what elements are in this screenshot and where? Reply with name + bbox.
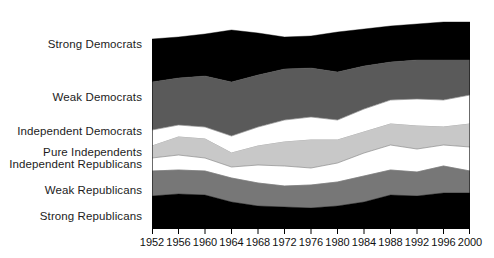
tick-label-1980: 1980	[325, 236, 349, 248]
tick-label-2000: 2000	[458, 236, 482, 248]
tick-label-1968: 1968	[246, 236, 270, 248]
tick-label-1956: 1956	[166, 236, 190, 248]
tick-label-1976: 1976	[299, 236, 323, 248]
band-label-independent-democrats: Independent Democrats	[17, 125, 142, 137]
tick-label-1960: 1960	[193, 236, 217, 248]
band-label-strong-democrats: Strong Democrats	[48, 38, 142, 50]
tick-label-1964: 1964	[219, 236, 243, 248]
chart-figure: Strong DemocratsWeak DemocratsIndependen…	[0, 0, 494, 258]
tick-label-1988: 1988	[378, 236, 402, 248]
tick-label-1972: 1972	[272, 236, 296, 248]
stacked-area-plot	[152, 10, 470, 229]
band-label-independent-republicans: Independent Republicans	[9, 158, 142, 170]
band-label-strong-republicans: Strong Republicans	[40, 210, 142, 222]
band-label-pure-independents: Pure Independents	[43, 146, 142, 158]
x-axis-tick-labels: 1952195619601964196819721976198019841988…	[0, 236, 494, 254]
band-label-weak-republicans: Weak Republicans	[45, 184, 142, 196]
tick-label-1984: 1984	[352, 236, 376, 248]
tick-label-1996: 1996	[431, 236, 455, 248]
tick-label-1952: 1952	[140, 236, 164, 248]
band-label-weak-democrats: Weak Democrats	[53, 91, 142, 103]
band-label-list: Strong DemocratsWeak DemocratsIndependen…	[0, 0, 146, 258]
stacked-area-svg	[152, 10, 470, 229]
tick-label-1992: 1992	[405, 236, 429, 248]
